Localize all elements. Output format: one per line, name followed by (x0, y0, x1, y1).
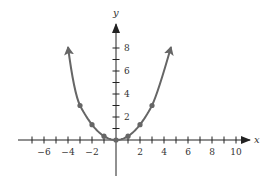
x-tick-label: 4 (161, 147, 167, 157)
data-point (113, 137, 118, 142)
data-point (125, 134, 130, 139)
y-tick-label: 8 (124, 43, 130, 53)
x-tick-label: 8 (209, 147, 215, 157)
y-tick-label: 2 (124, 112, 130, 122)
y-axis-label: y (112, 7, 119, 18)
x-tick-label: 6 (185, 147, 191, 157)
data-point (149, 103, 154, 108)
data-point (137, 122, 142, 127)
parabola-chart: −6−4−2246810 x 2468 y (0, 0, 271, 186)
data-point (89, 122, 94, 127)
data-point (77, 103, 82, 108)
x-axis-label: x (254, 134, 260, 145)
x-axis-tick-labels: −6−4−2246810 (37, 147, 242, 157)
x-tick-label: 10 (230, 147, 242, 157)
x-tick-label: −6 (37, 147, 51, 157)
y-axis: 2468 y (112, 7, 130, 176)
x-tick-label: −2 (85, 147, 98, 157)
y-axis-tick-labels: 2468 (124, 43, 130, 122)
x-tick-label: −4 (61, 147, 75, 157)
y-tick-label: 6 (124, 66, 130, 76)
data-point (101, 134, 106, 139)
x-tick-label: 2 (137, 147, 143, 157)
x-axis: −6−4−2246810 x (18, 134, 260, 157)
y-tick-label: 4 (124, 89, 130, 99)
